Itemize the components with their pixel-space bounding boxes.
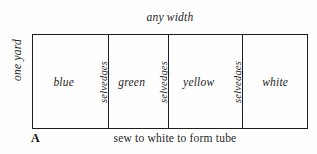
panel-label-yellow: yellow bbox=[183, 76, 214, 88]
selvedge-label-blue: selvedges bbox=[98, 60, 109, 102]
fabric-rectangle: blueselvedgesgreenselvedgesyellowselvedg… bbox=[32, 34, 308, 129]
selvedge-label-green: selvedges bbox=[157, 60, 168, 102]
bottom-caption-sew-instruction: sew to white to form tube bbox=[60, 133, 290, 145]
fabric-panel-white: white bbox=[242, 35, 307, 128]
selvedge-label-yellow: selvedges bbox=[232, 60, 243, 102]
fabric-panel-yellow: yellowselvedges bbox=[168, 35, 242, 128]
panel-label-white: white bbox=[262, 76, 288, 88]
top-caption-any-width: any width bbox=[32, 11, 308, 23]
panel-label-blue: blue bbox=[53, 76, 74, 88]
left-caption-one-yard: one yard bbox=[11, 32, 23, 88]
fabric-panel-blue: blueselvedges bbox=[33, 35, 108, 128]
fabric-panel-green: greenselvedges bbox=[108, 35, 168, 128]
figure-label-a: A bbox=[31, 132, 40, 144]
diagram-canvas: any width one yard blueselvedgesgreensel… bbox=[0, 0, 317, 154]
panel-label-green: green bbox=[118, 76, 145, 88]
